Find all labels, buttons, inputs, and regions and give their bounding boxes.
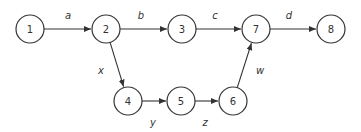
node-label: 2 bbox=[103, 24, 109, 35]
node-label: 1 bbox=[27, 24, 33, 35]
nodes-layer: 12378456 bbox=[16, 15, 345, 115]
edge-label: w bbox=[256, 65, 265, 76]
edge-label: z bbox=[201, 117, 208, 128]
arrow-icon bbox=[110, 42, 124, 86]
node-label: 4 bbox=[125, 96, 131, 107]
edge-2-4 bbox=[110, 42, 124, 86]
edge-label: a bbox=[65, 10, 71, 21]
node-5: 5 bbox=[167, 87, 195, 115]
edge-label: b bbox=[138, 10, 144, 21]
node-label: 7 bbox=[253, 24, 259, 35]
edge-label: c bbox=[212, 10, 218, 21]
node-1: 1 bbox=[16, 15, 44, 43]
node-4: 4 bbox=[114, 87, 142, 115]
edge-6-7 bbox=[237, 43, 251, 87]
edge-label: x bbox=[97, 65, 104, 76]
node-8: 8 bbox=[317, 15, 345, 43]
arrow-icon bbox=[237, 43, 251, 87]
node-2: 2 bbox=[92, 15, 120, 43]
node-label: 5 bbox=[178, 96, 184, 107]
node-label: 6 bbox=[230, 96, 236, 107]
node-label: 3 bbox=[179, 24, 185, 35]
node-3: 3 bbox=[168, 15, 196, 43]
edge-label: y bbox=[149, 117, 157, 128]
directed-graph: 12378456 abcdxyzw bbox=[0, 0, 361, 132]
edge-label: d bbox=[286, 10, 293, 21]
node-label: 8 bbox=[328, 24, 334, 35]
node-7: 7 bbox=[242, 15, 270, 43]
node-6: 6 bbox=[219, 87, 247, 115]
